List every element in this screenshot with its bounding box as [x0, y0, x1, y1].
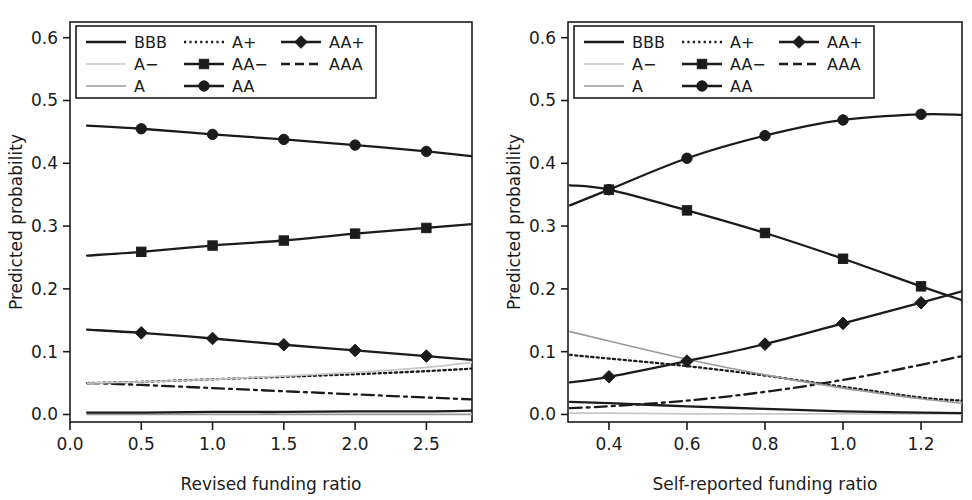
legend-label: AA	[730, 77, 752, 96]
legend-label: AA−	[232, 55, 268, 74]
series-marker-AA+	[420, 350, 433, 363]
series-line-AAA	[87, 383, 472, 399]
y-tick-label: 0.3	[31, 216, 58, 236]
series-marker-AA+	[915, 296, 928, 309]
legend-label: AA−	[730, 55, 766, 74]
legend-label: BBB	[134, 33, 167, 52]
series-line-AAA	[570, 356, 962, 408]
series-marker-AAminus	[760, 228, 769, 237]
legend-label: BBB	[632, 33, 665, 52]
y-tick-label: 0.5	[529, 90, 556, 110]
series-marker-AA	[279, 134, 289, 144]
legend-marker-square	[199, 59, 208, 68]
series-marker-AA	[136, 124, 146, 134]
series-marker-AAminus	[137, 247, 146, 256]
series-marker-AA+	[206, 332, 219, 345]
series-marker-AAminus	[682, 206, 691, 215]
y-tick-label: 0.6	[529, 28, 556, 48]
x-tick-label: 0.8	[751, 434, 778, 454]
legend-left: BBBA+AA+A−AA−AAAAAA	[76, 26, 376, 98]
chart-panel-left: 0.00.10.20.30.40.50.60.00.51.01.52.02.5R…	[0, 0, 486, 500]
chart-svg-right: 0.00.10.20.30.40.50.60.40.60.81.01.2Self…	[486, 0, 972, 500]
x-tick-label: 1.5	[270, 434, 297, 454]
legend-label: AA	[232, 77, 254, 96]
series-group-right	[570, 109, 962, 414]
series-marker-AA	[350, 140, 360, 150]
y-tick-label: 0.2	[31, 279, 58, 299]
chart-svg-left: 0.00.10.20.30.40.50.60.00.51.01.52.02.5R…	[0, 0, 486, 500]
figure-root: 0.00.10.20.30.40.50.60.00.51.01.52.02.5R…	[0, 0, 972, 500]
y-tick-label: 0.4	[529, 153, 556, 173]
x-tick-label: 1.0	[829, 434, 856, 454]
x-tick-label: 0.6	[673, 434, 700, 454]
legend-marker-circle	[199, 81, 209, 91]
y-tick-label: 0.2	[529, 279, 556, 299]
series-group-left	[87, 124, 472, 415]
series-marker-AA+	[837, 317, 850, 330]
series-marker-AA	[604, 184, 614, 194]
x-tick-label: 0.4	[595, 434, 622, 454]
legend-label: A−	[632, 55, 656, 74]
series-marker-AA+	[278, 338, 291, 351]
legend-label: AA+	[827, 33, 863, 52]
x-tick-label: 2.5	[413, 434, 440, 454]
chart-panel-right: 0.00.10.20.30.40.50.60.40.60.81.01.2Self…	[486, 0, 972, 500]
legend-marker-circle	[697, 81, 707, 91]
series-marker-AA+	[135, 327, 148, 340]
series-marker-AA	[838, 115, 848, 125]
legend-right: BBBA+AA+A−AA−AAAAAA	[574, 26, 874, 98]
y-axis-title: Predicted probability	[6, 134, 26, 310]
y-tick-label: 0.4	[31, 153, 58, 173]
series-line-BBB	[87, 411, 472, 413]
x-tick-label: 0.0	[56, 434, 83, 454]
series-marker-AAminus	[838, 254, 847, 263]
y-axis-title: Predicted probability	[504, 134, 524, 310]
y-tick-label: 0.6	[31, 28, 58, 48]
x-axis-title: Revised funding ratio	[180, 474, 361, 494]
legend-label: AAA	[827, 55, 861, 74]
legend-label: A+	[730, 33, 754, 52]
legend-label: A+	[232, 33, 256, 52]
legend-label: AA+	[329, 33, 365, 52]
x-tick-label: 2.0	[342, 434, 369, 454]
series-line-Aminus	[87, 362, 472, 383]
series-marker-AA	[760, 130, 770, 140]
legend-label: A	[134, 77, 145, 96]
series-line-BBB	[570, 402, 962, 413]
y-tick-label: 0.0	[31, 404, 58, 424]
series-marker-AA	[916, 109, 926, 119]
series-line-A+	[570, 355, 962, 401]
series-marker-AA	[421, 146, 431, 156]
legend-label: A	[632, 77, 643, 96]
series-marker-AAminus	[279, 236, 288, 245]
x-axis-title: Self-reported funding ratio	[653, 474, 878, 494]
legend-label: A−	[134, 55, 158, 74]
y-tick-label: 0.1	[31, 342, 58, 362]
legend-marker-square	[697, 59, 706, 68]
y-tick-label: 0.0	[529, 404, 556, 424]
legend-label: AAA	[329, 55, 363, 74]
series-marker-AA+	[603, 370, 616, 383]
y-tick-label: 0.5	[31, 90, 58, 110]
series-marker-AA+	[759, 338, 772, 351]
y-tick-label: 0.1	[529, 342, 556, 362]
series-marker-AAminus	[208, 241, 217, 250]
series-marker-AAminus	[422, 223, 431, 232]
series-marker-AA	[682, 153, 692, 163]
series-line-AA	[570, 114, 962, 205]
series-marker-AAminus	[350, 229, 359, 238]
series-marker-AA+	[349, 344, 362, 357]
series-line-AAminus	[570, 185, 962, 300]
x-tick-label: 1.2	[908, 434, 935, 454]
y-tick-label: 0.3	[529, 216, 556, 236]
x-tick-label: 0.5	[128, 434, 155, 454]
series-marker-AA	[207, 129, 217, 139]
series-marker-AAminus	[916, 282, 925, 291]
x-tick-label: 1.0	[199, 434, 226, 454]
